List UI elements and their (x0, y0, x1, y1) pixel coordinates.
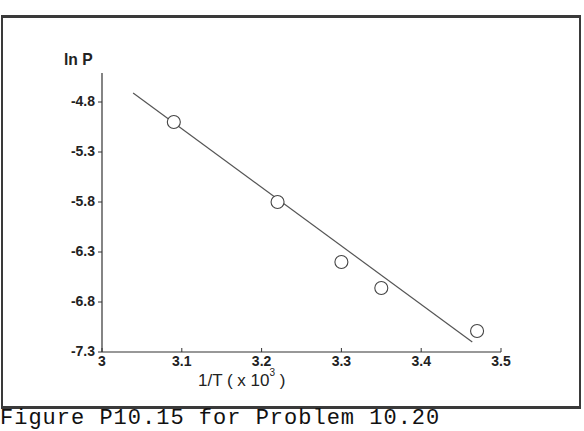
x-tick-label: 3 (82, 353, 122, 369)
y-tick-label: -6.8 (35, 293, 95, 309)
y-axis-label: ln P (64, 50, 93, 70)
x-tick-label: 3.2 (242, 353, 282, 369)
fit-line (133, 93, 472, 342)
y-tick-label: -6.3 (35, 243, 95, 259)
data-point-marker (271, 196, 284, 209)
data-point-marker (471, 325, 484, 338)
x-axis-label-exponent: 3 (270, 367, 276, 378)
data-point-marker (167, 116, 180, 129)
x-tick-label: 3.4 (401, 353, 441, 369)
x-axis-label-close: ) (275, 371, 285, 390)
figure-caption: Figure P10.15 for Problem 10.20 (0, 406, 440, 431)
x-tick-label: 3.5 (481, 353, 521, 369)
data-point-marker (335, 256, 348, 269)
data-point-marker (375, 282, 388, 295)
x-tick-label: 3.1 (162, 353, 202, 369)
y-tick-label: -4.8 (35, 93, 95, 109)
y-tick-label: -5.3 (35, 143, 95, 159)
x-axis-label-main: 1/T ( x 10 (198, 371, 270, 390)
x-axis-label: 1/T ( x 103 ) (198, 370, 285, 391)
y-tick-label: -5.8 (35, 193, 95, 209)
x-tick-label: 3.3 (321, 353, 361, 369)
